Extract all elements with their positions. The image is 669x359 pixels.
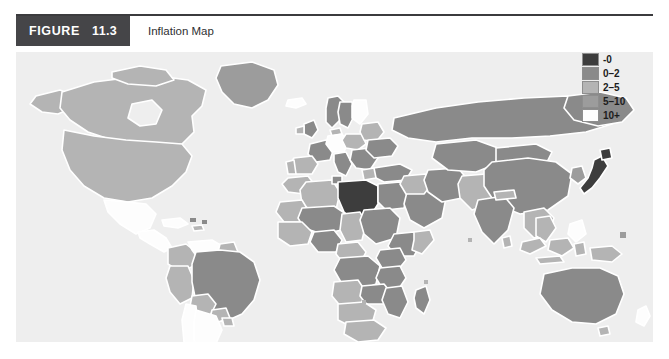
region-portugal xyxy=(286,160,296,174)
legend-item: -0 xyxy=(582,52,632,66)
legend-swatch-deflation xyxy=(582,53,599,66)
region-uruguay xyxy=(222,318,234,326)
region-tasmania xyxy=(598,326,610,336)
region-greece xyxy=(362,168,376,180)
region-island-speck-2 xyxy=(202,220,207,224)
legend-item: 2–5 xyxy=(582,80,632,94)
region-island-speck-7 xyxy=(620,232,626,238)
region-nepal-bhutan xyxy=(494,190,516,200)
region-hokkaido xyxy=(600,148,612,160)
region-sri-lanka xyxy=(502,236,512,248)
legend-swatch-very-high xyxy=(582,109,599,122)
map-legend: -0 0–2 2–5 5–10 10+ xyxy=(582,52,632,122)
legend-item: 5–10 xyxy=(582,94,632,108)
figure-title: Inflation Map xyxy=(148,16,214,46)
region-island-speck-6 xyxy=(362,300,366,304)
legend-swatch-high xyxy=(582,95,599,108)
region-island-speck-4 xyxy=(468,238,472,242)
region-java xyxy=(536,256,564,264)
region-island-speck-5 xyxy=(424,280,428,284)
legend-label-moderate: 2–5 xyxy=(603,81,620,94)
legend-label-high: 5–10 xyxy=(603,95,625,108)
figure-container: FIGURE 11.3 Inflation Map xyxy=(0,0,669,359)
legend-swatch-moderate xyxy=(582,81,599,94)
world-map xyxy=(16,52,653,342)
legend-swatch-low xyxy=(582,67,599,80)
figure-tag-number: 11.3 xyxy=(92,24,117,38)
legend-item: 0–2 xyxy=(582,66,632,80)
region-hudson-bay xyxy=(128,100,162,126)
legend-label-very-high: 10+ xyxy=(603,109,620,122)
region-sulawesi xyxy=(574,242,586,256)
region-island-speck-1 xyxy=(190,218,196,222)
region-island-speck-3 xyxy=(302,190,306,194)
region-ireland xyxy=(296,126,304,134)
legend-label-deflation: -0 xyxy=(603,53,612,66)
region-hispaniola xyxy=(192,225,204,231)
legend-item: 10+ xyxy=(582,108,632,122)
map-panel xyxy=(16,52,653,342)
region-ukraine xyxy=(366,138,398,158)
legend-label-low: 0–2 xyxy=(603,67,620,80)
figure-tag-label: FIGURE 11.3 xyxy=(29,24,117,38)
figure-tag: FIGURE 11.3 xyxy=(16,16,130,46)
figure-tag-word: FIGURE xyxy=(29,24,88,38)
